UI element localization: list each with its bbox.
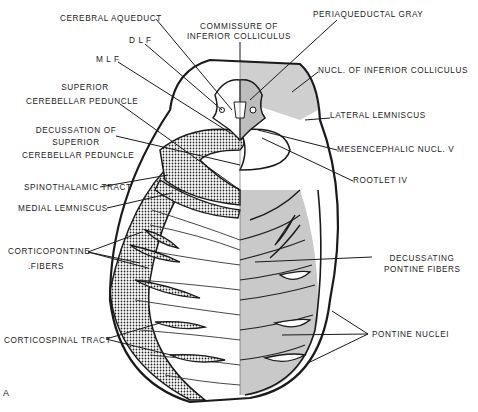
label-rootlet-iv: ROOTLET IV: [353, 176, 408, 186]
label-corticopontine-line2: .FIBERS: [28, 262, 64, 272]
label-superior-cp-line2: CEREBELLAR PEDUNCLE: [26, 97, 138, 107]
label-commissure-line1: COMMISSURE OF: [180, 22, 298, 32]
label-lateral-lemniscus: LATERAL LEMNISCUS: [330, 111, 426, 121]
label-pontine-nuclei: PONTINE NUCLEI: [372, 330, 449, 340]
label-decussating-line2: PONTINE FIBERS: [384, 265, 461, 275]
label-nucl-inferior-colliculus: NUCL. OF INFERIOR COLLICULUS: [318, 66, 468, 76]
label-decussation-line2: SUPERIOR: [20, 138, 132, 148]
label-mlf: M L F: [96, 55, 120, 65]
pons-cross-section-diagram: CEREBRAL AQUEDUCT COMMISSURE OF INFERIOR…: [0, 0, 478, 412]
label-mesencephalic-nucl: MESENCEPHALIC NUCL. V: [337, 145, 454, 155]
label-decussation-line3: CEREBELLAR PEDUNCLE: [22, 151, 134, 161]
panel-letter: A: [3, 388, 10, 398]
label-decussating-line1: DECUSSATING: [382, 254, 462, 264]
label-dlf: D L F: [129, 36, 152, 46]
label-corticopontine-line1: CORTICOPONTINE: [8, 247, 90, 257]
label-cerebral-aqueduct: CEREBRAL AQUEDUCT: [60, 14, 162, 24]
label-decussation-line1: DECUSSATION OF: [20, 126, 132, 136]
label-superior-cp-line1: SUPERIOR: [26, 83, 144, 93]
label-commissure-line2: INFERIOR COLLICULUS: [180, 32, 298, 42]
label-medial-lemniscus: MEDIAL LEMNISCUS: [18, 204, 108, 214]
label-periaqueductal-gray: PERIAQUEDUCTAL GRAY: [313, 10, 423, 20]
label-corticospinal-tract: CORTICOSPINAL TRACT: [4, 336, 111, 346]
label-spinothalamic-tract: SPINOTHALAMIC TRACT: [24, 183, 132, 193]
